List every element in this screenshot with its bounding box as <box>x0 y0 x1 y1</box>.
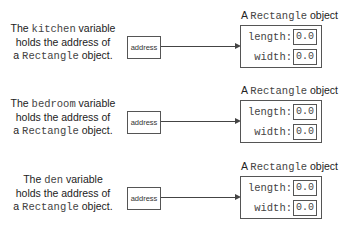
field-length: length:0.0 <box>248 29 317 45</box>
field-width: width:0.0 <box>254 200 317 216</box>
field-label: length: <box>248 106 292 118</box>
rectangle-object-box: length:0.0 width:0.0 <box>240 176 322 219</box>
caption-text: A <box>241 160 250 172</box>
rectangle-object-box: length:0.0 width:0.0 <box>240 100 322 143</box>
desc-text: object. <box>79 49 113 61</box>
address-box: address <box>127 111 161 134</box>
caption-text: object <box>307 9 338 21</box>
desc-text: a <box>13 200 22 212</box>
variable-description: The bedroom variable holds the address o… <box>4 97 122 138</box>
class-name: Rectangle <box>22 201 79 213</box>
field-value: 0.0 <box>293 124 317 140</box>
desc-text: variable <box>63 173 103 185</box>
field-label: width: <box>254 51 292 63</box>
desc-text: holds the address of <box>16 36 111 48</box>
desc-text: holds the address of <box>16 187 111 199</box>
desc-text: The <box>11 22 32 34</box>
reference-arrow <box>161 46 237 47</box>
desc-text: holds the address of <box>16 111 111 123</box>
variable-description: The den variable holds the address of a … <box>4 173 122 214</box>
class-name: Rectangle <box>250 161 307 173</box>
reference-arrow <box>161 197 237 198</box>
object-caption: A Rectangle object <box>241 160 338 173</box>
caption-text: A <box>241 9 250 21</box>
desc-text: variable <box>76 22 116 34</box>
variable-description: The kitchen variable holds the address o… <box>4 22 122 63</box>
desc-text: a <box>13 124 22 136</box>
caption-text: A <box>241 84 250 96</box>
class-name: Rectangle <box>250 85 307 97</box>
class-name: Rectangle <box>22 125 79 137</box>
caption-text: object <box>307 84 338 96</box>
field-value: 0.0 <box>293 29 317 45</box>
desc-text: object. <box>79 124 113 136</box>
field-label: length: <box>248 31 292 43</box>
object-caption: A Rectangle object <box>241 9 338 22</box>
class-name: Rectangle <box>22 50 79 62</box>
desc-text: The <box>23 173 44 185</box>
rectangle-object-box: length:0.0 width:0.0 <box>240 25 322 68</box>
caption-text: object <box>307 160 338 172</box>
field-width: width:0.0 <box>254 49 317 65</box>
object-caption: A Rectangle object <box>241 84 338 97</box>
field-value: 0.0 <box>293 200 317 216</box>
field-label: width: <box>254 202 292 214</box>
variable-name: kitchen <box>32 23 76 35</box>
field-label: width: <box>254 126 292 138</box>
field-width: width:0.0 <box>254 124 317 140</box>
field-value: 0.0 <box>293 49 317 65</box>
reference-row-bedroom: The bedroom variable holds the address o… <box>0 75 347 151</box>
desc-text: a <box>13 49 22 61</box>
desc-text: variable <box>76 97 116 109</box>
variable-name: den <box>44 174 63 186</box>
field-length: length:0.0 <box>248 104 317 120</box>
desc-text: object. <box>79 200 113 212</box>
field-label: length: <box>248 182 292 194</box>
field-value: 0.0 <box>293 180 317 196</box>
field-value: 0.0 <box>293 104 317 120</box>
field-length: length:0.0 <box>248 180 317 196</box>
reference-row-den: The den variable holds the address of a … <box>0 151 347 227</box>
class-name: Rectangle <box>250 10 307 22</box>
address-box: address <box>127 187 161 210</box>
variable-name: bedroom <box>32 98 76 110</box>
desc-text: The <box>11 97 32 109</box>
address-box: address <box>127 36 161 59</box>
reference-arrow <box>161 121 237 122</box>
reference-row-kitchen: The kitchen variable holds the address o… <box>0 0 347 76</box>
